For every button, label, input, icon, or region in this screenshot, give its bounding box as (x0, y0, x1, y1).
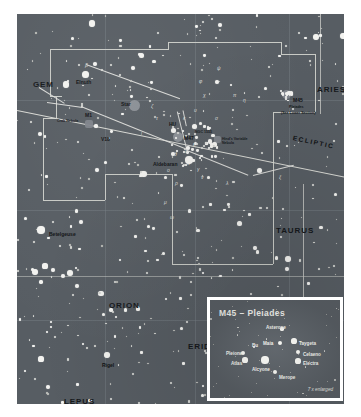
star (38, 132, 42, 136)
greek-designation: ξ (279, 174, 281, 180)
star (51, 98, 52, 99)
star (190, 63, 191, 64)
star (307, 282, 310, 285)
inset-label-atlas: Atlas (231, 361, 242, 366)
star (134, 162, 136, 164)
star (152, 60, 156, 64)
star (230, 84, 233, 87)
star (164, 176, 167, 179)
star (40, 53, 41, 54)
inset-background-star (338, 309, 339, 310)
star-orion-member (82, 343, 85, 346)
star (179, 276, 181, 278)
inset-background-star (306, 395, 307, 396)
star (196, 382, 197, 383)
star (202, 272, 205, 275)
star (335, 274, 337, 276)
inset-label-celaeno: Celaeno (303, 352, 321, 357)
inset-background-star (266, 338, 268, 340)
star (69, 244, 71, 246)
inset-background-star (279, 366, 280, 367)
star (333, 265, 335, 267)
star (110, 383, 111, 384)
star-orion-member (102, 313, 105, 316)
inset-background-star (298, 354, 299, 355)
star (119, 39, 122, 42)
star (204, 394, 206, 396)
star-hyades-member (203, 125, 205, 127)
star (17, 239, 19, 241)
star (117, 196, 119, 198)
star (95, 168, 99, 172)
star (253, 246, 257, 250)
star (221, 240, 222, 241)
star (138, 402, 140, 404)
star (212, 262, 213, 263)
star-hyades-member (203, 145, 205, 147)
inset-background-star (235, 356, 236, 357)
greek-designation: ι (141, 130, 142, 136)
star (327, 156, 329, 158)
star (134, 235, 137, 238)
star (24, 316, 25, 317)
star (77, 269, 78, 270)
star (128, 163, 130, 165)
star (170, 382, 172, 384)
star-orion-member (46, 331, 48, 333)
star (248, 213, 251, 216)
star (61, 332, 62, 333)
star (70, 45, 72, 47)
star-hyades-member (182, 130, 185, 133)
star (57, 142, 59, 144)
star-hyades-member (205, 142, 207, 144)
star (92, 14, 93, 15)
label-elnath: Elnath (76, 79, 91, 85)
star (232, 269, 234, 271)
star (112, 94, 113, 95)
star (130, 95, 133, 98)
star (79, 317, 80, 318)
inset-background-star (229, 395, 230, 396)
star (69, 107, 71, 109)
star (79, 220, 83, 224)
star (97, 309, 99, 311)
greek-designation: ω (170, 214, 174, 220)
inset-background-star (336, 308, 338, 310)
star (326, 166, 327, 167)
star (313, 242, 315, 244)
star (144, 323, 146, 325)
inset-background-star (329, 343, 330, 344)
star (201, 394, 205, 398)
inset-background-star (251, 392, 252, 393)
star (301, 217, 303, 219)
star (123, 197, 125, 199)
star (188, 400, 190, 402)
star (110, 130, 113, 133)
star (78, 38, 80, 40)
star (131, 149, 133, 151)
inset-background-star (289, 325, 290, 326)
star (114, 335, 117, 338)
inset-background-star (210, 336, 211, 337)
inset-star-merope (273, 370, 278, 375)
inset-background-star (256, 383, 257, 384)
star (47, 184, 48, 185)
star (205, 168, 207, 170)
star (271, 252, 272, 253)
star (119, 74, 121, 76)
star-hyades-member (181, 162, 183, 164)
star-hyades-member (192, 124, 197, 129)
inset-background-star (302, 393, 304, 395)
star (155, 403, 157, 404)
greek-designation: υ (194, 107, 197, 113)
star (44, 135, 47, 138)
star-hyades-member (191, 148, 194, 151)
star (67, 358, 69, 360)
star (119, 45, 121, 47)
star (188, 209, 192, 213)
star-orion-member (32, 269, 38, 275)
star (52, 31, 54, 33)
star (335, 123, 337, 125)
greek-designation: ο (167, 167, 170, 173)
star (197, 257, 199, 259)
